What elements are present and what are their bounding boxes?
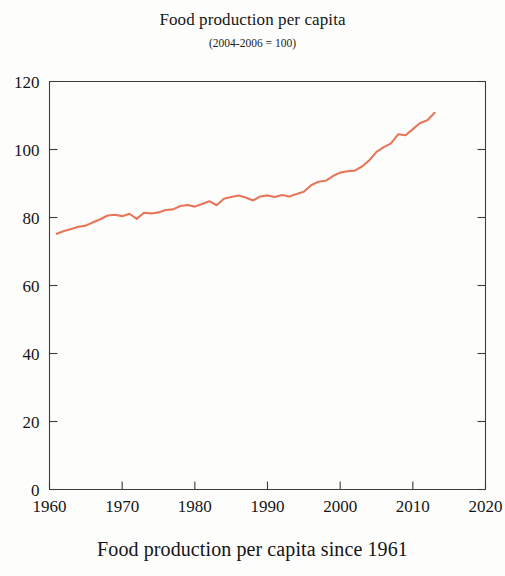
y-axis-tick-labels: 020406080100120 (14, 73, 40, 500)
axis-frame (50, 82, 486, 490)
y-tick-label: 20 (23, 413, 40, 432)
line-chart-svg: 020406080100120 196019701980199020002010… (0, 0, 505, 520)
x-tick-label: 2010 (396, 497, 430, 516)
y-tick-label: 120 (14, 73, 40, 92)
chart-figure: Food production per capita (2004-2006 = … (0, 0, 505, 576)
axes-group (50, 82, 486, 490)
x-tick-label: 1970 (105, 497, 139, 516)
x-tick-label: 1990 (251, 497, 285, 516)
y-tick-label: 80 (23, 209, 40, 228)
y-tick-label: 100 (14, 141, 40, 160)
x-tick-label: 1960 (33, 497, 67, 516)
figure-caption: Food production per capita since 1961 (0, 536, 505, 562)
plot-area: 020406080100120 196019701980199020002010… (0, 0, 505, 520)
y-axis-ticks (50, 82, 486, 490)
x-tick-label: 2020 (469, 497, 503, 516)
x-tick-label: 1980 (178, 497, 212, 516)
data-series-group (57, 113, 435, 234)
x-axis-tick-labels: 1960197019801990200020102020 (33, 497, 503, 516)
y-tick-label: 60 (23, 277, 40, 296)
data-line (57, 113, 435, 234)
x-axis-ticks (50, 482, 486, 490)
x-tick-label: 2000 (323, 497, 357, 516)
y-tick-label: 40 (23, 345, 40, 364)
